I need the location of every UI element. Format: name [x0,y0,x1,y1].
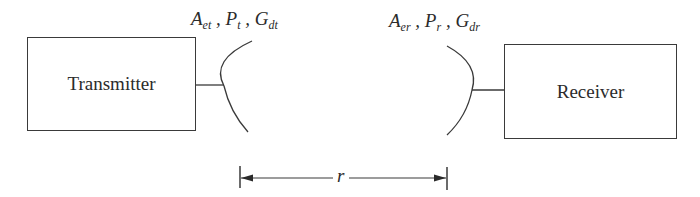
transmitter-antenna-dish [221,41,253,132]
param-power: Pt , [226,8,255,29]
arrow-right-icon [434,175,446,182]
arrow-left-icon [241,175,253,182]
transmitter-box: Transmitter [27,37,196,131]
receiver-antenna-dish [447,46,474,135]
param-effective-aperture: Aet , [191,8,226,29]
param-directive-gain: Gdr [455,10,479,31]
receiver-antenna-params: Aer , Pr , Gdr [389,10,480,35]
transmitter-label: Transmitter [68,73,156,95]
param-directive-gain: Gdt [255,8,278,29]
receiver-label: Receiver [557,81,625,103]
receiver-box: Receiver [504,44,677,139]
transmitter-antenna-params: Aet , Pt , Gdt [191,8,278,33]
param-effective-aperture: Aer , [389,10,425,31]
param-power: Pr , [425,10,456,31]
distance-label: r [337,165,344,187]
